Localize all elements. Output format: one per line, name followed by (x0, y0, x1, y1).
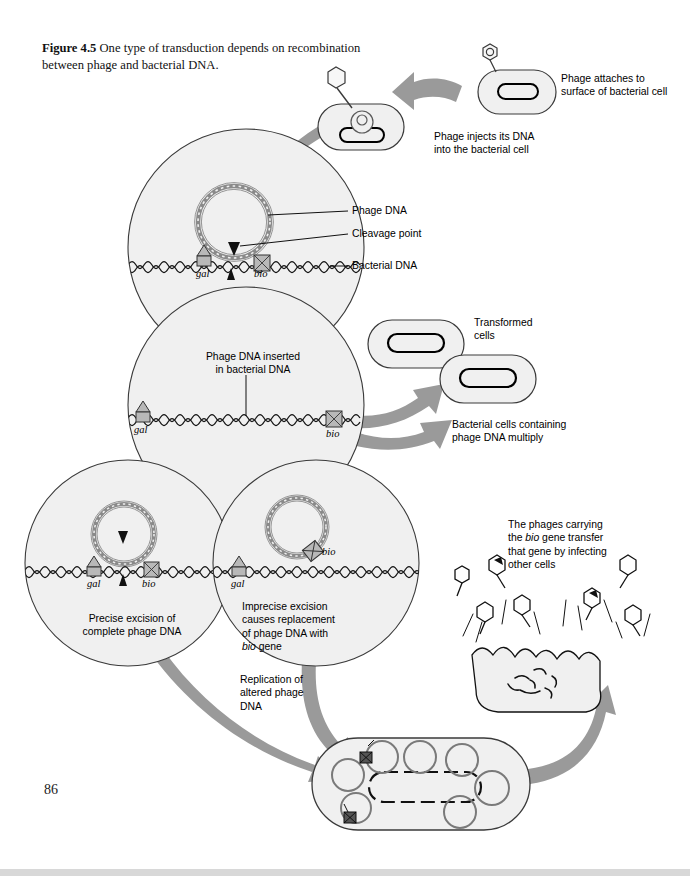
label-bacterial-dna: Bacterial DNA (352, 259, 417, 272)
bacterial-dna-strand-icon (460, 369, 516, 387)
phage-icon (328, 67, 352, 108)
page-number: 86 (44, 782, 58, 798)
gene-label-bio: bio (142, 578, 155, 589)
label-cleavage-point: Cleavage point (352, 227, 421, 240)
phage-icon (489, 555, 505, 588)
label-phage-attaches: Phage attaches to surface of bacterial c… (561, 72, 685, 99)
gene-label-gal: gal (231, 578, 244, 589)
phage-icon (483, 44, 497, 72)
gene-label-bio: bio (322, 546, 335, 557)
phage-icon (584, 588, 600, 620)
gene-label-gal: gal (196, 268, 209, 279)
label-imprecise-excision: Imprecise excisioncauses replacementof p… (242, 600, 366, 653)
gene-label-bio: bio (254, 268, 267, 279)
lysed-cell-icon (472, 647, 601, 712)
page-edge-shadow (0, 869, 690, 876)
bio-gene-italic: bio (242, 641, 256, 652)
gene-label-bio: bio (326, 428, 339, 439)
label-precise-excision: Precise excision of complete phage DNA (62, 612, 202, 639)
phage-icon (625, 605, 641, 636)
curved-arrow-icon (392, 72, 462, 110)
gal-gene-marker-base-icon (136, 412, 150, 422)
gene-label-gal: gal (134, 424, 147, 435)
phage-icon (514, 595, 530, 627)
label-phages-transfer: The phages carryingthe bio gene transfer… (508, 518, 668, 571)
gal-gene-marker-base-icon (197, 256, 211, 266)
label-cells-multiply: Bacterial cells containing phage DNA mul… (452, 418, 622, 445)
gal-gene-marker-base-icon (232, 567, 246, 576)
bacterial-dna-strand-icon (388, 334, 444, 352)
bottom-replication-cell-stage (312, 738, 530, 830)
inject-stage (318, 67, 404, 150)
bio-gene-italic: bio (525, 532, 539, 543)
phage-icon (455, 566, 469, 596)
label-phage-dna: Phage DNA (352, 204, 407, 217)
bacterial-dna-strand-icon (498, 84, 538, 99)
gal-gene-marker-base-icon (87, 567, 101, 576)
attach-stage (478, 44, 556, 114)
label-replication: Replication of altered phage DNA (240, 673, 350, 713)
label-phage-injects: Phage injects its DNA into the bacterial… (434, 130, 574, 157)
gene-label-gal: gal (87, 578, 100, 589)
injected-phage-dna-core-icon (357, 115, 367, 125)
lysed-cell-stage (455, 555, 650, 712)
label-phage-dna-inserted: Phage DNA inserted in bacterial DNA (178, 350, 328, 377)
label-transformed-cells: Transformed cells (474, 316, 584, 343)
curved-arrow-icon (352, 384, 444, 428)
figure-page: Figure 4.5 One type of transduction depe… (0, 0, 690, 876)
